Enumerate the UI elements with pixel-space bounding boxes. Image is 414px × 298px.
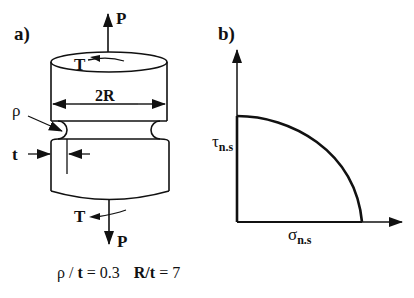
y-axis-label: τn.s bbox=[212, 132, 234, 154]
x-axis-label: σn.s bbox=[288, 225, 312, 247]
panel-b: b) τn.s σn.s bbox=[212, 23, 402, 247]
thickness-label: t bbox=[12, 145, 18, 164]
panel-a: a) P T bbox=[12, 9, 180, 282]
torque-arrow-bottom-icon bbox=[96, 210, 126, 217]
torque-arrowhead-bottom-icon bbox=[89, 213, 100, 220]
force-bottom-label: P bbox=[117, 232, 127, 251]
notch-radius-pointer-icon bbox=[28, 116, 62, 131]
torque-top-label: T bbox=[74, 55, 86, 74]
torque-bottom-label: T bbox=[74, 207, 86, 226]
panel-b-label: b) bbox=[218, 23, 235, 45]
notch-radius-label: ρ bbox=[12, 101, 20, 120]
failure-envelope-curve bbox=[237, 116, 362, 222]
figure: a) P T bbox=[0, 0, 414, 298]
force-top-label: P bbox=[116, 9, 126, 28]
diameter-label: 2R bbox=[95, 87, 115, 104]
specimen bbox=[51, 52, 169, 200]
panel-a-label: a) bbox=[14, 23, 30, 45]
geometry-formula: ρ / t = 0.3R/t = 7 bbox=[57, 264, 180, 282]
